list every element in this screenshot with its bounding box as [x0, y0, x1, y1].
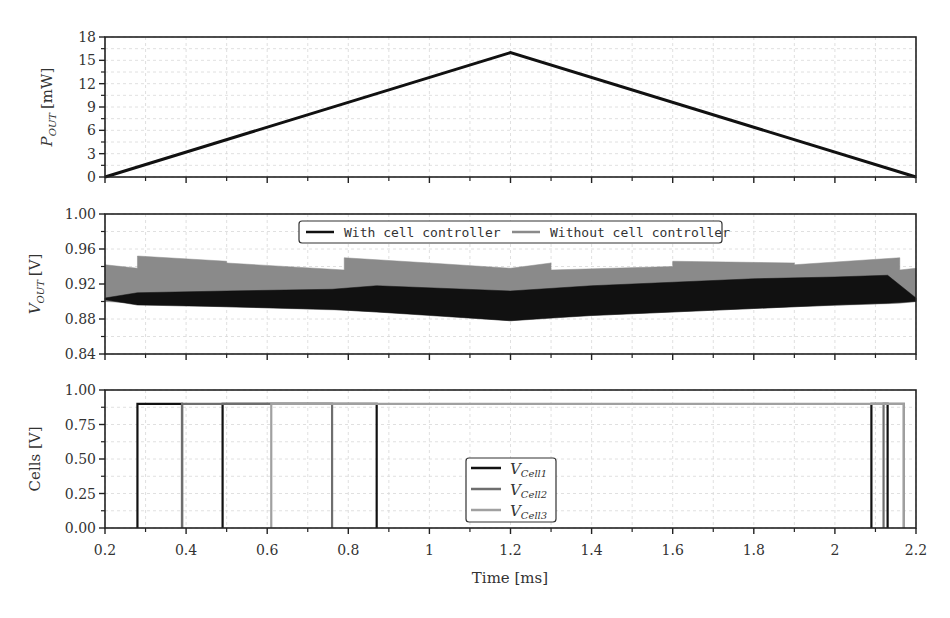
- x-tick-label: 2: [830, 542, 839, 558]
- y-tick-label: 0.75: [65, 417, 96, 433]
- figure: 0369121518 0.840.880.920.961.00 0.000.25…: [0, 0, 950, 618]
- cells-axis-label: Cells [V]: [26, 427, 44, 492]
- y-tick-label: 1.00: [65, 382, 96, 398]
- y-tick-label: 9: [87, 99, 96, 115]
- x-tick-label: 1.4: [580, 542, 602, 558]
- voltage-legend: With cell controller Without cell contro…: [299, 221, 730, 243]
- v-cell3-trace: [271, 404, 904, 528]
- y-tick-label: 0.96: [65, 241, 96, 257]
- y-tick-label: 6: [87, 122, 96, 138]
- y-tick-label: 1.00: [65, 206, 96, 222]
- y-tick-label: 12: [78, 76, 96, 92]
- y-tick-label: 0: [87, 169, 96, 185]
- time-axis-label: Time [ms]: [472, 569, 548, 587]
- legend-label-with: With cell controller: [344, 225, 501, 240]
- y-tick-label: 3: [87, 146, 96, 162]
- y-tick-label: 15: [78, 52, 96, 68]
- y-tick-label: 0.88: [65, 311, 96, 327]
- y-tick-label: 0.00: [65, 520, 96, 536]
- x-tick-label: 1: [425, 542, 434, 558]
- y-tick-label: 0.84: [65, 346, 96, 362]
- x-tick-label: 0.2: [94, 542, 116, 558]
- cells-legend: VCell1 VCell2 VCell3: [466, 458, 556, 522]
- y-tick-label: 18: [78, 29, 96, 45]
- x-tick-label: 0.4: [175, 542, 197, 558]
- x-tick-label: 1.8: [743, 542, 765, 558]
- y-tick-label: 0.25: [65, 486, 96, 502]
- power-output-panel: 0369121518: [78, 29, 916, 185]
- legend-label-without: Without cell controller: [550, 225, 730, 240]
- x-tick-label: 1.6: [662, 542, 684, 558]
- x-tick-label: 1.2: [499, 542, 521, 558]
- x-tick-label: 0.8: [337, 542, 359, 558]
- voltage-axis-label: VOUT[V]: [26, 254, 46, 315]
- y-tick-label: 0.50: [65, 451, 96, 467]
- x-tick-label: 2.2: [905, 542, 927, 558]
- power-axis-label: POUT[mW]: [38, 68, 58, 148]
- y-tick-label: 0.92: [65, 276, 96, 292]
- x-tick-label: 0.6: [256, 542, 278, 558]
